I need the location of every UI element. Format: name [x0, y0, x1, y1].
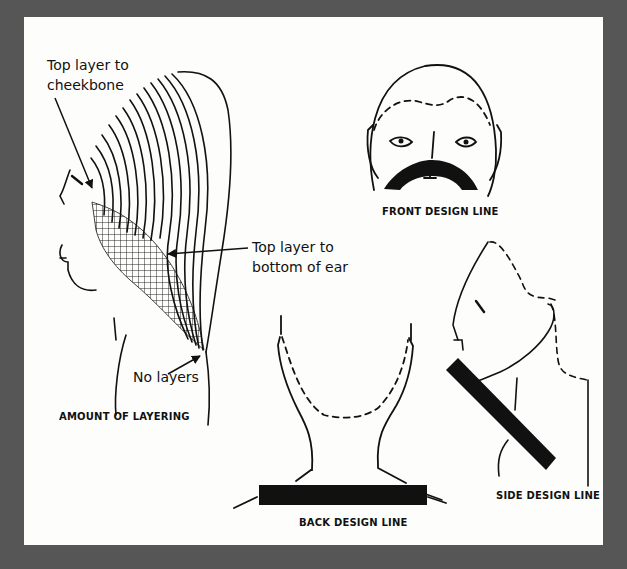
callout-no-layers: No layers	[133, 367, 199, 387]
callout-line: cheekbone	[47, 75, 129, 95]
callout-top-layer-cheekbone: Top layer to cheekbone	[47, 55, 129, 95]
side-head-drawing	[420, 242, 588, 500]
callout-line: bottom of ear	[252, 257, 348, 277]
callout-line: No layers	[133, 367, 199, 387]
hatched-layering-region	[92, 202, 204, 350]
callout-line: Top layer to	[47, 55, 129, 75]
callout-top-layer-bottom-of-ear: Top layer to bottom of ear	[252, 237, 348, 277]
caption-side-design-line: SIDE DESIGN LINE	[496, 490, 600, 501]
back-design-line-bar	[259, 485, 427, 505]
callout-line: Top layer to	[252, 237, 348, 257]
back-head-drawing	[234, 316, 446, 508]
caption-amount-of-layering: AMOUNT OF LAYERING	[59, 411, 190, 422]
front-design-line-bar	[384, 160, 478, 190]
front-left-eye-icon	[399, 139, 404, 144]
front-right-eye-icon	[464, 140, 469, 145]
front-face-drawing	[367, 65, 501, 196]
caption-front-design-line: FRONT DESIGN LINE	[382, 206, 499, 217]
caption-back-design-line: BACK DESIGN LINE	[299, 517, 408, 528]
